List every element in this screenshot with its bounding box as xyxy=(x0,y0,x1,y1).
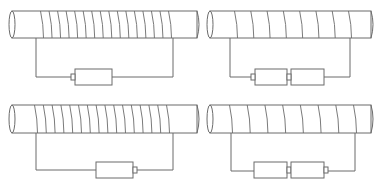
battery-body xyxy=(254,162,287,178)
battery-cell xyxy=(96,162,137,178)
diagram-canvas xyxy=(0,0,385,187)
battery-terminal xyxy=(324,167,328,173)
tube-end-cap xyxy=(207,105,213,133)
battery-body xyxy=(255,69,287,85)
wire-right xyxy=(328,133,355,171)
wire-right xyxy=(137,133,173,170)
battery-cell xyxy=(291,162,328,178)
battery-cell xyxy=(254,162,291,178)
battery-terminal xyxy=(133,167,137,173)
battery-terminal xyxy=(287,74,291,80)
wire-right xyxy=(112,38,173,77)
iron-core-tube xyxy=(210,11,371,38)
battery-body xyxy=(291,162,324,178)
battery-cell xyxy=(251,69,287,85)
battery-terminal xyxy=(287,167,291,173)
battery-body xyxy=(291,69,324,85)
tube-end-cap xyxy=(207,11,213,38)
battery-body xyxy=(75,69,112,85)
tube-end-cap xyxy=(9,105,15,133)
panel-top-right xyxy=(207,11,373,85)
panel-top-left xyxy=(9,11,199,85)
wire-left xyxy=(230,38,251,77)
wire-right xyxy=(324,38,350,77)
wire-left xyxy=(36,133,96,170)
wire-left xyxy=(36,38,71,77)
battery-body xyxy=(96,162,133,178)
panel-bottom-right xyxy=(207,105,373,178)
iron-core-tube xyxy=(210,105,371,133)
panel-bottom-left xyxy=(9,105,199,178)
battery-cell xyxy=(71,69,112,85)
wire-left xyxy=(231,133,254,171)
electromagnet-diagram xyxy=(0,0,385,187)
battery-terminal xyxy=(71,74,75,80)
battery-terminal xyxy=(251,74,255,80)
battery-cell xyxy=(287,69,324,85)
tube-end-cap xyxy=(9,11,15,38)
